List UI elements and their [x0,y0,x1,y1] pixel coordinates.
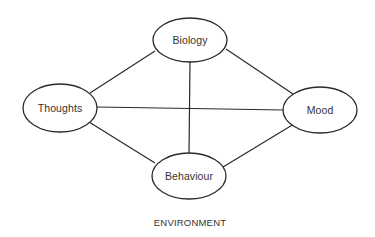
diagram-canvas: Biology Thoughts Mood Behaviour ENVIRONM… [0,0,375,237]
edge-thoughts-mood [97,107,284,110]
edges-group [89,49,294,167]
edge-behaviour-mood [223,124,294,167]
environment-label: ENVIRONMENT [154,217,226,228]
node-label-biology: Biology [172,34,207,46]
node-label-thoughts: Thoughts [38,102,83,114]
node-label-mood: Mood [307,104,334,116]
node-label-behaviour: Behaviour [165,170,213,182]
edge-thoughts-behaviour [89,122,155,163]
edge-biology-mood [226,49,293,94]
edge-thoughts-biology [90,51,155,93]
